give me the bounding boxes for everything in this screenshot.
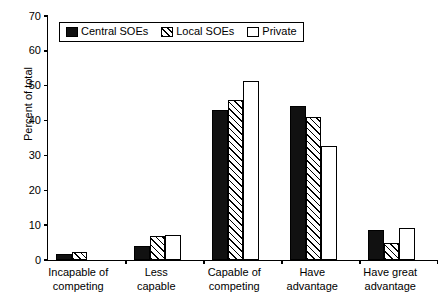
legend-label-central-soes: Central SOEs (81, 25, 148, 38)
bar (212, 110, 228, 260)
y-tick-label: 50 (29, 78, 41, 93)
legend-item-local-soes: Local SOEs (161, 25, 234, 38)
bar-group (126, 17, 204, 260)
x-axis-label: Capable of competing (189, 266, 279, 293)
legend-swatch-icon-central-soes (66, 27, 78, 37)
bar (228, 100, 244, 260)
legend-label-private: Private (262, 25, 296, 38)
bar (72, 252, 88, 260)
bar (384, 243, 400, 260)
chart-legend: Central SOEs Local SOEs Private (59, 22, 304, 42)
y-tick-label: 30 (29, 148, 41, 163)
y-tick-label: 10 (29, 218, 41, 233)
y-tick-label: 60 (29, 43, 41, 58)
legend-label-local-soes: Local SOEs (176, 25, 234, 38)
x-axis-tick (281, 260, 282, 264)
y-tick-label: 40 (29, 113, 41, 128)
bar (56, 254, 72, 260)
x-axis-label: Less capable (111, 266, 201, 293)
x-axis-tick (437, 260, 438, 264)
bar (243, 81, 259, 261)
legend-swatch-icon-local-soes (161, 27, 173, 37)
bar-group (360, 17, 438, 260)
legend-swatch-icon-private (247, 27, 259, 37)
bar-group (282, 17, 360, 260)
bar (290, 106, 306, 260)
y-tick-label: 20 (29, 183, 41, 198)
bar (399, 228, 415, 260)
bar-group (204, 17, 282, 260)
x-axis-tick (203, 260, 204, 264)
y-tick-label: 70 (29, 9, 41, 24)
bar (165, 235, 181, 260)
x-axis-label: Incapable of competing (33, 266, 123, 293)
bar-chart: Percent of total 010203040506070 Incapab… (0, 0, 445, 306)
bar (134, 246, 150, 260)
legend-item-central-soes: Central SOEs (66, 25, 148, 38)
bar (150, 236, 166, 260)
x-axis-label: Have great advantage (345, 266, 435, 293)
x-axis-label: Have advantage (267, 266, 357, 293)
bar (306, 117, 322, 260)
x-axis-tick (125, 260, 126, 264)
bar-group (48, 17, 126, 260)
plot-area: 010203040506070 (47, 17, 437, 261)
bar (368, 230, 384, 260)
x-axis-tick (359, 260, 360, 264)
legend-item-private: Private (247, 25, 296, 38)
bar (321, 146, 337, 260)
